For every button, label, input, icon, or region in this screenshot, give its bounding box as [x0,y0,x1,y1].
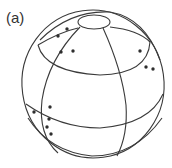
pole-cap [78,15,110,29]
data-point [71,49,74,52]
data-point [47,117,50,120]
sphere-diagram [0,0,172,168]
data-point [32,110,35,113]
data-point [65,27,68,30]
data-point [45,125,48,128]
data-point [59,50,62,53]
upper-latitude-line [38,42,150,75]
left-meridian-line [41,27,80,153]
data-point [144,65,147,68]
sphere-lower-rim [28,118,162,156]
data-point [48,105,51,108]
data-point [138,49,141,52]
right-meridian-line [103,28,126,156]
data-point [56,34,59,37]
upper-latitude-back-right [110,27,150,42]
data-point [151,67,154,70]
sphere-outline [12,1,172,167]
data-point [49,132,52,135]
lower-latitude-line [26,94,163,128]
